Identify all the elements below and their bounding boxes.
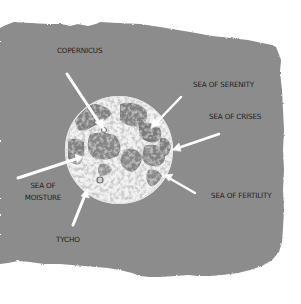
diagram-canvas xyxy=(0,0,301,304)
label-sea-of-moisture-line2: MOISTURE xyxy=(22,192,64,204)
moon-diagram: COPERNICUS SEA OF SERENITY SEA OF CRISES… xyxy=(0,0,301,304)
label-sea-of-crises: SEA OF CRISES xyxy=(209,113,261,120)
label-tycho: TYCHO xyxy=(56,236,80,243)
label-sea-of-fertility: SEA OF FERTILITY xyxy=(211,192,272,199)
label-sea-of-serenity: SEA OF SERENITY xyxy=(193,81,254,88)
label-sea-of-moisture-line1: SEA OF xyxy=(22,180,64,192)
label-copernicus: COPERNICUS xyxy=(57,47,102,54)
label-sea-of-moisture: SEA OF MOISTURE xyxy=(22,180,64,204)
